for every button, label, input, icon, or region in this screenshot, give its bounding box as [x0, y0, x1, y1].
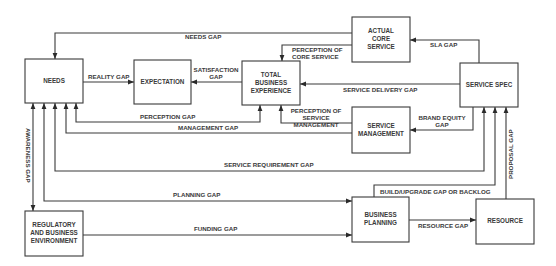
node-total-business-experience: TOTAL BUSINESS EXPERIENCE: [242, 61, 300, 105]
edge-proposal-gap: PROPOSAL GAP: [506, 107, 514, 199]
svg-text:SATISFACTION: SATISFACTION: [194, 66, 239, 73]
edge-reality-gap: REALITY GAP: [83, 73, 134, 82]
svg-text:FUNDING GAP: FUNDING GAP: [194, 225, 237, 232]
svg-text:AND BUSINESS: AND BUSINESS: [30, 229, 78, 236]
edge-sla-gap: SLA GAP: [410, 40, 479, 63]
svg-text:PERCEPTION GAP: PERCEPTION GAP: [140, 113, 195, 120]
svg-text:PROPOSAL GAP: PROPOSAL GAP: [507, 129, 514, 179]
node-business-planning: BUSINESS PLANNING: [352, 197, 409, 242]
svg-text:SERVICE SPEC: SERVICE SPEC: [466, 81, 513, 88]
edge-perception-gap: PERCEPTION GAP: [76, 103, 260, 122]
edge-service-delivery-gap: SERVICE DELIVERY GAP: [300, 84, 460, 93]
node-service-spec: SERVICE SPEC: [460, 63, 518, 107]
svg-text:NEEDS: NEEDS: [43, 77, 65, 84]
gap-model-diagram: NEEDS GAP PERCEPTION OF CORE SERVICE REA…: [0, 0, 556, 266]
edge-label: NEEDS GAP: [185, 33, 221, 40]
svg-text:MANAGEMENT GAP: MANAGEMENT GAP: [178, 124, 238, 131]
edge-satisfaction-gap: SATISFACTION GAP: [191, 66, 242, 82]
svg-text:AWARENESS GAP: AWARENESS GAP: [25, 128, 32, 183]
svg-text:NEEDS GAP: NEEDS GAP: [185, 33, 221, 40]
svg-text:REALITY GAP: REALITY GAP: [88, 73, 130, 80]
svg-text:BUSINESS: BUSINESS: [364, 211, 396, 218]
svg-text:BUSINESS: BUSINESS: [255, 79, 287, 86]
svg-text:BRAND EQUITY: BRAND EQUITY: [418, 114, 466, 121]
svg-text:PERCEPTION OF: PERCEPTION OF: [291, 107, 342, 114]
svg-text:SERVICE: SERVICE: [367, 122, 395, 129]
edge-funding-gap: FUNDING GAP: [83, 225, 352, 235]
edge-perception-of-service-management: PERCEPTION OF SERVICE MANAGEMENT: [281, 105, 352, 128]
svg-text:GAP: GAP: [209, 73, 222, 80]
node-regulatory-business-environment: REGULATORY AND BUSINESS ENVIRONMENT: [25, 211, 83, 256]
edge-perception-of-core-service: PERCEPTION OF CORE SERVICE: [282, 45, 352, 61]
svg-text:CORE SERVICE: CORE SERVICE: [292, 53, 339, 60]
svg-text:RESOURCE: RESOURCE: [487, 217, 523, 224]
svg-text:ACTUAL: ACTUAL: [368, 27, 394, 34]
svg-text:MANAGEMENT: MANAGEMENT: [358, 130, 404, 137]
svg-text:REGULATORY: REGULATORY: [32, 221, 76, 228]
svg-text:PERCEPTION OF: PERCEPTION OF: [292, 46, 343, 53]
edge-brand-equity-gap: BRAND EQUITY GAP: [410, 107, 473, 130]
svg-text:SERVICE DELIVERY GAP: SERVICE DELIVERY GAP: [343, 86, 418, 93]
svg-text:EXPERIENCE: EXPERIENCE: [251, 87, 292, 94]
svg-text:MANAGEMENT: MANAGEMENT: [293, 121, 338, 128]
svg-text:PLANNING: PLANNING: [364, 219, 397, 226]
node-needs: NEEDS: [25, 59, 83, 103]
svg-text:RESOURCE GAP: RESOURCE GAP: [418, 222, 468, 229]
svg-text:SLA GAP: SLA GAP: [430, 41, 457, 48]
svg-text:ENVIRONMENT: ENVIRONMENT: [31, 237, 78, 244]
edge-awareness-gap: AWARENESS GAP: [25, 103, 33, 211]
svg-text:TOTAL: TOTAL: [261, 71, 282, 78]
svg-text:EXPECTATION: EXPECTATION: [141, 78, 185, 85]
svg-text:CORE: CORE: [372, 35, 390, 42]
svg-text:SERVICE REQUIREMENT GAP: SERVICE REQUIREMENT GAP: [224, 161, 314, 168]
node-service-management: SERVICE MANAGEMENT: [352, 107, 410, 153]
node-resource: RESOURCE: [476, 199, 534, 244]
svg-text:SERVICE: SERVICE: [302, 114, 329, 121]
svg-text:SERVICE: SERVICE: [367, 43, 395, 50]
edge-resource-gap: RESOURCE GAP: [409, 220, 476, 229]
svg-text:GAP: GAP: [435, 121, 448, 128]
svg-text:BUILD/UPGRADE GAP OR BACKLOG: BUILD/UPGRADE GAP OR BACKLOG: [380, 188, 491, 195]
node-expectation: EXPECTATION: [134, 60, 191, 104]
node-actual-core-service: ACTUAL CORE SERVICE: [352, 17, 410, 62]
svg-text:PLANNING GAP: PLANNING GAP: [173, 191, 220, 198]
